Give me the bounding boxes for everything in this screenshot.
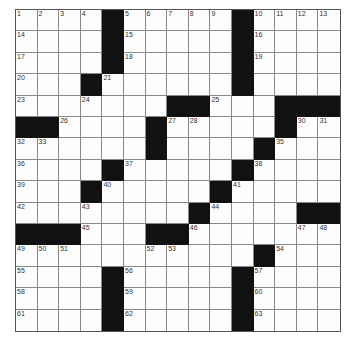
grid-cell[interactable] [297,160,319,181]
grid-cell[interactable]: 40 [102,181,124,202]
grid-cell[interactable] [59,203,81,224]
grid-cell[interactable]: 52 [146,245,168,266]
grid-cell[interactable]: 10 [254,10,276,31]
grid-cell[interactable]: 45 [81,224,103,245]
grid-cell[interactable] [124,245,146,266]
grid-cell[interactable]: 9 [210,10,232,31]
grid-cell[interactable] [189,53,211,74]
grid-cell[interactable]: 31 [318,117,340,138]
grid-cell[interactable]: 26 [59,117,81,138]
grid-cell[interactable] [275,181,297,202]
grid-cell[interactable]: 43 [81,203,103,224]
grid-cell[interactable]: 13 [318,10,340,31]
grid-cell[interactable] [167,160,189,181]
grid-cell[interactable] [275,160,297,181]
grid-cell[interactable]: 8 [189,10,211,31]
grid-cell[interactable] [189,74,211,95]
grid-cell[interactable] [124,203,146,224]
grid-cell[interactable] [59,96,81,117]
grid-cell[interactable]: 24 [81,96,103,117]
grid-cell[interactable] [189,310,211,331]
grid-cell[interactable] [59,310,81,331]
grid-cell[interactable] [167,310,189,331]
grid-cell[interactable] [318,288,340,309]
grid-cell[interactable] [318,53,340,74]
grid-cell[interactable] [232,138,254,159]
grid-cell[interactable] [167,203,189,224]
grid-cell[interactable] [232,96,254,117]
grid-cell[interactable]: 25 [210,96,232,117]
grid-cell[interactable] [297,74,319,95]
grid-cell[interactable] [210,53,232,74]
grid-cell[interactable]: 53 [167,245,189,266]
grid-cell[interactable]: 48 [318,224,340,245]
grid-cell[interactable]: 18 [124,53,146,74]
grid-cell[interactable] [38,203,60,224]
grid-cell[interactable] [38,74,60,95]
grid-cell[interactable] [189,138,211,159]
grid-cell[interactable]: 4 [81,10,103,31]
grid-cell[interactable] [275,203,297,224]
grid-cell[interactable]: 38 [254,160,276,181]
grid-cell[interactable]: 57 [254,267,276,288]
grid-cell[interactable] [167,138,189,159]
grid-cell[interactable] [38,160,60,181]
grid-cell[interactable] [38,267,60,288]
grid-cell[interactable] [167,31,189,52]
grid-cell[interactable] [232,117,254,138]
grid-cell[interactable] [210,138,232,159]
grid-cell[interactable]: 7 [167,10,189,31]
grid-cell[interactable] [232,203,254,224]
grid-cell[interactable] [275,224,297,245]
grid-cell[interactable]: 50 [38,245,60,266]
grid-cell[interactable] [318,31,340,52]
grid-cell[interactable] [38,288,60,309]
grid-cell[interactable] [124,181,146,202]
grid-cell[interactable]: 17 [16,53,38,74]
grid-cell[interactable] [275,74,297,95]
grid-cell[interactable] [318,160,340,181]
grid-cell[interactable] [254,74,276,95]
grid-cell[interactable]: 62 [124,310,146,331]
grid-cell[interactable]: 11 [275,10,297,31]
grid-cell[interactable]: 27 [167,117,189,138]
grid-cell[interactable] [81,160,103,181]
grid-cell[interactable] [297,138,319,159]
grid-cell[interactable]: 2 [38,10,60,31]
grid-cell[interactable] [59,138,81,159]
grid-cell[interactable] [167,53,189,74]
grid-cell[interactable] [297,288,319,309]
grid-cell[interactable] [254,117,276,138]
grid-cell[interactable] [81,31,103,52]
grid-cell[interactable] [189,288,211,309]
grid-cell[interactable] [146,31,168,52]
grid-cell[interactable] [59,267,81,288]
grid-cell[interactable] [189,160,211,181]
grid-cell[interactable] [297,245,319,266]
grid-cell[interactable] [210,31,232,52]
grid-cell[interactable] [146,288,168,309]
grid-cell[interactable] [102,203,124,224]
grid-cell[interactable] [210,245,232,266]
grid-cell[interactable] [167,288,189,309]
grid-cell[interactable] [146,53,168,74]
grid-cell[interactable] [275,53,297,74]
grid-cell[interactable]: 35 [275,138,297,159]
grid-cell[interactable]: 36 [16,160,38,181]
grid-cell[interactable]: 47 [297,224,319,245]
grid-cell[interactable]: 33 [38,138,60,159]
grid-cell[interactable] [81,267,103,288]
grid-cell[interactable]: 19 [254,53,276,74]
grid-cell[interactable] [210,310,232,331]
grid-cell[interactable] [146,310,168,331]
grid-cell[interactable]: 58 [16,288,38,309]
grid-cell[interactable] [167,267,189,288]
grid-cell[interactable] [146,267,168,288]
grid-cell[interactable]: 30 [297,117,319,138]
grid-cell[interactable] [124,138,146,159]
grid-cell[interactable] [146,203,168,224]
grid-cell[interactable] [275,310,297,331]
grid-cell[interactable]: 46 [189,224,211,245]
grid-cell[interactable] [189,31,211,52]
grid-cell[interactable]: 23 [16,96,38,117]
